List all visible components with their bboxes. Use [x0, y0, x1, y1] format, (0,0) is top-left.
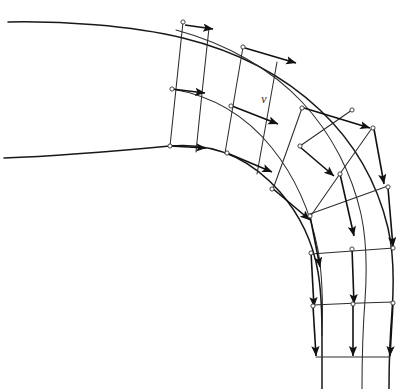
node-mid-6	[338, 172, 342, 176]
node-inner-8	[309, 251, 313, 255]
radial-4	[273, 108, 302, 189]
radial-3	[257, 62, 277, 174]
node-outer-7	[386, 185, 390, 189]
node-mid-2	[229, 104, 233, 108]
annotation-labels: v	[261, 92, 267, 106]
node-outer-9	[391, 301, 395, 305]
curved-duct-vector-field: v	[0, 0, 406, 389]
node-inner-0	[168, 144, 172, 148]
radial-0	[170, 22, 183, 146]
streamline-arcs	[172, 30, 366, 389]
flow-diagram-figure: v	[0, 0, 406, 389]
velocity-vector-18	[313, 306, 316, 356]
node-mid-4	[298, 144, 302, 148]
radial-1	[196, 28, 209, 152]
radial-grid-lines	[170, 22, 394, 357]
radial-2	[225, 47, 243, 153]
mid-streamline-1	[176, 30, 366, 389]
node-outer-4	[300, 106, 304, 110]
velocity-vector-5	[232, 106, 278, 124]
velocity-vector-7	[304, 108, 370, 128]
grid-nodes	[168, 20, 395, 308]
node-inner-4	[270, 187, 274, 191]
node-inner-9	[311, 304, 315, 308]
velocity-vector-1	[185, 25, 213, 29]
node-outer-5	[350, 108, 354, 112]
velocity-vector-8	[300, 147, 334, 176]
node-outer-8	[391, 246, 395, 250]
velocity-vector-4	[245, 48, 296, 63]
velocity-vector-14	[352, 248, 354, 304]
node-inner-2	[225, 151, 229, 155]
node-mid-0	[170, 87, 174, 91]
node-outer-0	[181, 20, 185, 24]
node-outer-6	[371, 126, 375, 130]
node-mid-9	[351, 302, 355, 306]
node-mid-8	[350, 247, 354, 251]
velocity-vector-6	[227, 153, 272, 172]
inner-wall	[4, 145, 322, 389]
node-outer-2	[241, 45, 245, 49]
velocity-symbol: v	[261, 92, 267, 106]
velocity-vector-15	[311, 252, 314, 307]
node-inner-6	[308, 214, 312, 218]
velocity-vector-10	[374, 129, 384, 184]
